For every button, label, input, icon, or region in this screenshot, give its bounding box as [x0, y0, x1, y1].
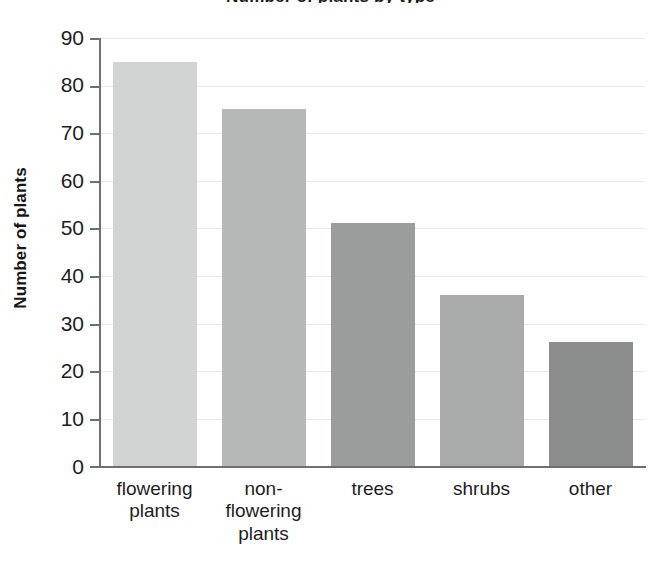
chart-title: Number of plants by type: [0, 0, 661, 3]
y-tick-mark-90: [90, 38, 100, 40]
y-tick-mark-0: [90, 466, 100, 468]
y-tick-mark-30: [90, 324, 100, 326]
y-tick-mark-70: [90, 133, 100, 135]
y-tick-mark-60: [90, 181, 100, 183]
y-axis-line: [99, 38, 101, 468]
y-tick-mark-20: [90, 371, 100, 373]
y-tick-label-50: 50: [24, 217, 84, 238]
x-axis-line: [99, 466, 646, 468]
y-axis-tick-labels: 90 80 70 60 50 40 30 20 10 0: [22, 0, 84, 573]
bar-other: [549, 342, 633, 466]
y-tick-label-60: 60: [24, 170, 84, 191]
bar-trees: [331, 223, 415, 466]
bar-flowering-plants: [113, 62, 197, 466]
y-tick-label-80: 80: [24, 74, 84, 95]
bar-shrubs: [440, 295, 524, 466]
bars-layer: [100, 38, 645, 466]
y-tick-label-90: 90: [24, 27, 84, 48]
y-tick-label-10: 10: [24, 408, 84, 429]
y-tick-label-30: 30: [24, 313, 84, 334]
bar-chart-figure: Number of plants by type Number of plant…: [0, 0, 661, 573]
y-tick-label-20: 20: [24, 360, 84, 381]
x-axis-label-other: other: [526, 478, 656, 500]
y-tick-mark-50: [90, 228, 100, 230]
y-tick-label-70: 70: [24, 122, 84, 143]
y-tick-label-40: 40: [24, 265, 84, 286]
y-tick-mark-10: [90, 419, 100, 421]
bar-non-flowering-plants: [222, 109, 306, 466]
y-tick-mark-80: [90, 86, 100, 88]
y-tick-label-0: 0: [24, 456, 84, 477]
y-tick-mark-40: [90, 276, 100, 278]
